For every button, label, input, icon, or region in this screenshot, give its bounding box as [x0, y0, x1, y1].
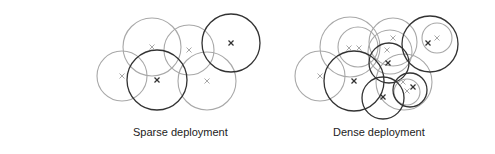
base-station-x-icon	[381, 95, 386, 100]
base-station-x-icon	[352, 79, 357, 84]
base-station-x-icon	[155, 78, 160, 83]
base-station-x-icon	[435, 36, 440, 41]
dense-deployment-caption: Dense deployment	[333, 126, 425, 138]
coverage-circle	[393, 73, 427, 107]
base-station-x-icon	[205, 79, 210, 84]
base-station-x-icon	[386, 61, 391, 66]
base-station-x-icon	[405, 89, 410, 94]
base-station-x-icon	[426, 41, 431, 46]
base-station-x-icon	[318, 74, 323, 79]
base-station-x-icon	[357, 46, 362, 51]
base-station-x-icon	[385, 48, 390, 53]
base-station-x-icon	[187, 48, 192, 53]
dense-deployment-panel	[295, 16, 458, 119]
coverage-circle	[362, 77, 404, 119]
base-station-x-icon	[411, 85, 416, 90]
base-station-x-icon	[229, 41, 234, 46]
base-station-x-icon	[347, 46, 352, 51]
base-station-x-icon	[150, 45, 155, 50]
sparse-deployment-panel	[97, 14, 260, 110]
base-station-x-icon	[120, 74, 125, 79]
sparse-deployment-caption: Sparse deployment	[133, 126, 228, 138]
base-station-x-icon	[401, 80, 406, 85]
base-station-x-icon	[391, 36, 396, 41]
